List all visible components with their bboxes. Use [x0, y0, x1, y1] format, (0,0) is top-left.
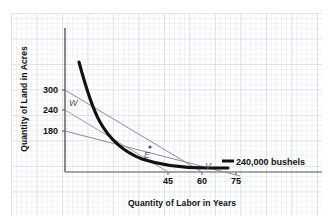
x-axis-title: Quantity of Labor in Years — [92, 198, 272, 208]
x-tick-label-75: 75 — [225, 176, 247, 186]
y-axis-title: Quantity of Land in Acres — [19, 39, 29, 159]
isoquant-curve — [79, 62, 228, 168]
isoquant-output-label: 240,000 bushels — [236, 157, 305, 167]
point-label-e: E — [144, 150, 150, 160]
x-tick-label-60: 60 — [191, 176, 213, 186]
isocost-line-w — [65, 90, 202, 172]
point-e-marker — [148, 145, 151, 148]
chart-page: Quantity of Land in Acres Quantity of La… — [0, 0, 330, 224]
y-tick-label-300: 300 — [30, 85, 58, 95]
point-label-w: W — [69, 98, 78, 108]
point-label-v: V — [205, 161, 211, 171]
x-tick-label-45: 45 — [157, 176, 179, 186]
y-tick-label-180: 180 — [30, 126, 58, 136]
y-tick-label-240: 240 — [30, 105, 58, 115]
